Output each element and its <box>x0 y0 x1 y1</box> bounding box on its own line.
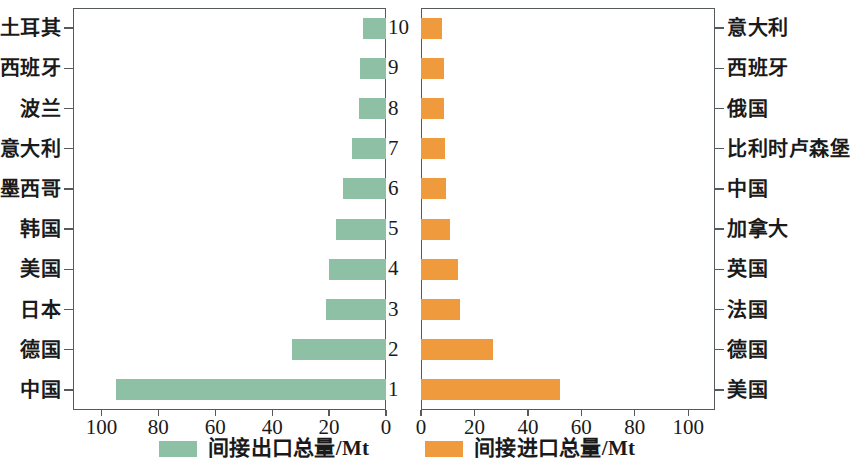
x-axis-export: 100806040200 <box>73 410 386 434</box>
category-tick <box>715 349 724 350</box>
category-label: 西班牙 <box>0 58 61 78</box>
category-tick <box>64 389 73 390</box>
category-label: 日本 <box>20 300 61 320</box>
dual-bar-chart-figure: 土耳其西班牙波兰意大利墨西哥韩国美国日本德国中国 10987654321 意大利… <box>0 0 858 462</box>
category-label: 加拿大 <box>727 219 789 239</box>
category-label: 中国 <box>727 179 768 199</box>
rank-index-label: 9 <box>388 57 418 78</box>
category-tick <box>64 228 73 229</box>
category-label: 比利时卢森堡 <box>727 139 850 159</box>
legend-item-export: 间接出口总量/Mt <box>159 438 369 459</box>
bar <box>329 259 386 280</box>
category-tick <box>715 188 724 189</box>
category-label: 波兰 <box>20 99 61 119</box>
category-tick <box>64 108 73 109</box>
x-axis-tick-label: 80 <box>624 416 645 438</box>
chart-panel-export: 土耳其西班牙波兰意大利墨西哥韩国美国日本德国中国 <box>73 8 386 410</box>
bar <box>421 18 442 39</box>
rank-index-label: 10 <box>388 17 418 38</box>
category-tick <box>715 68 724 69</box>
legend-label-export: 间接出口总量/Mt <box>208 438 369 459</box>
category-label: 意大利 <box>0 139 61 159</box>
bar <box>421 219 450 240</box>
bar <box>421 98 444 119</box>
x-axis-tick-label: 80 <box>148 416 169 438</box>
bar <box>421 379 560 400</box>
category-tick <box>64 188 73 189</box>
legend-swatch-export-icon <box>159 441 197 457</box>
category-label: 美国 <box>727 380 768 400</box>
bar <box>421 138 445 159</box>
category-tick <box>64 68 73 69</box>
rank-index-label: 6 <box>388 178 418 199</box>
bar <box>359 98 386 119</box>
category-tick <box>715 269 724 270</box>
category-tick <box>715 148 724 149</box>
legend-item-import: 间接进口总量/Mt <box>425 438 635 459</box>
bar <box>363 18 386 39</box>
rank-index-label: 2 <box>388 339 418 360</box>
category-label: 意大利 <box>727 18 789 38</box>
bar-group-export: 土耳其西班牙波兰意大利墨西哥韩国美国日本德国中国 <box>73 8 386 410</box>
category-tick <box>715 309 724 310</box>
x-axis-tick-label: 100 <box>86 416 118 438</box>
bar <box>421 58 444 79</box>
bar <box>292 339 386 360</box>
category-label: 英国 <box>727 259 768 279</box>
legend-swatch-import-icon <box>425 441 463 457</box>
category-tick <box>715 108 724 109</box>
bar <box>421 178 446 199</box>
category-tick <box>64 148 73 149</box>
bar <box>326 299 386 320</box>
category-label: 美国 <box>20 259 61 279</box>
rank-index-label: 8 <box>388 98 418 119</box>
category-tick <box>64 309 73 310</box>
x-axis-tick-label: 0 <box>381 416 392 438</box>
x-axis-tick-label: 60 <box>571 416 592 438</box>
bar <box>421 259 458 280</box>
rank-index-label: 1 <box>388 379 418 400</box>
bar <box>360 58 386 79</box>
bar <box>421 299 460 320</box>
legend-label-import: 间接进口总量/Mt <box>474 438 635 459</box>
category-tick <box>64 349 73 350</box>
category-label: 法国 <box>727 300 768 320</box>
x-axis-tick-label: 60 <box>205 416 226 438</box>
rank-index-label: 5 <box>388 218 418 239</box>
x-axis-tick-label: 40 <box>517 416 538 438</box>
bar <box>352 138 386 159</box>
category-tick <box>715 27 724 28</box>
category-label: 墨西哥 <box>0 179 61 199</box>
category-label: 土耳其 <box>0 18 61 38</box>
bar <box>421 339 493 360</box>
category-tick <box>64 269 73 270</box>
category-label: 韩国 <box>20 219 61 239</box>
category-label: 德国 <box>20 340 61 360</box>
x-axis-tick-label: 40 <box>262 416 283 438</box>
category-tick <box>715 228 724 229</box>
category-tick <box>715 389 724 390</box>
bar <box>116 379 386 400</box>
category-label: 德国 <box>727 340 768 360</box>
bar <box>343 178 386 199</box>
category-tick <box>64 27 73 28</box>
category-label: 西班牙 <box>727 58 789 78</box>
x-axis-import: 020406080100 <box>421 410 715 434</box>
category-label: 中国 <box>20 380 61 400</box>
chart-panel-import: 意大利西班牙俄国比利时卢森堡中国加拿大英国法国德国美国 <box>421 8 715 410</box>
rank-index-label: 3 <box>388 299 418 320</box>
rank-index-label: 7 <box>388 138 418 159</box>
x-axis-tick-label: 20 <box>319 416 340 438</box>
x-axis-tick-label: 0 <box>416 416 427 438</box>
rank-index-label: 4 <box>388 258 418 279</box>
x-axis-tick-label: 20 <box>464 416 485 438</box>
category-label: 俄国 <box>727 99 768 119</box>
center-rank-index-column: 10987654321 <box>388 8 418 410</box>
bar <box>336 219 386 240</box>
chart-legend: 间接出口总量/Mt 间接进口总量/Mt <box>0 438 858 462</box>
bar-group-import: 意大利西班牙俄国比利时卢森堡中国加拿大英国法国德国美国 <box>421 8 715 410</box>
x-axis-tick-label: 100 <box>673 416 705 438</box>
